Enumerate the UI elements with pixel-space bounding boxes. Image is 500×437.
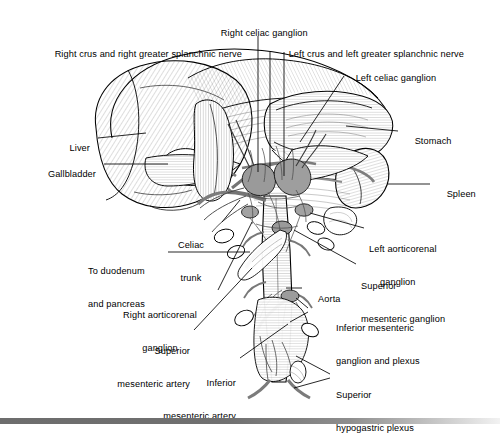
right-aorticorenal-ganglion-shape bbox=[242, 206, 259, 218]
footer-gradient-bar bbox=[0, 418, 500, 424]
label-celiac-trunk-line2: trunk bbox=[162, 273, 220, 284]
label-superior-hypogastric-plexus: Superior hypogastric plexus bbox=[336, 368, 414, 437]
label-inferior-mesenteric-ganglion-line1: Inferior mesenteric bbox=[336, 323, 420, 334]
label-liver-text: Liver bbox=[70, 143, 90, 153]
label-spleen-text: Spleen bbox=[447, 189, 476, 199]
label-gallbladder-text: Gallbladder bbox=[48, 169, 96, 179]
label-right-aorticorenal-line1: Right aorticorenal bbox=[104, 310, 216, 321]
label-inferior-mesenteric-artery-line1: Inferior bbox=[114, 378, 236, 389]
label-right-celiac-ganglion-text: Right celiac ganglion bbox=[221, 28, 308, 38]
label-to-duodenum-line1: To duodenum bbox=[88, 266, 145, 277]
label-left-celiac-ganglion-text: Left celiac ganglion bbox=[356, 73, 437, 83]
label-right-crus-splanchnic: Right crus and right greater splanchnic … bbox=[44, 38, 242, 71]
label-inferior-mesenteric-ganglion-line2: ganglion and plexus bbox=[336, 356, 420, 367]
left-aorticorenal-ganglion-shape bbox=[295, 204, 313, 216]
label-superior-mesenteric-ganglion-line1: Superior bbox=[361, 281, 445, 292]
label-left-aorticorenal-line1: Left aorticorenal bbox=[369, 244, 437, 255]
label-celiac-trunk-line1: Celiac bbox=[162, 240, 220, 251]
label-spleen: Spleen bbox=[436, 178, 476, 211]
label-right-crus-splanchnic-text: Right crus and right greater splanchnic … bbox=[55, 49, 242, 59]
label-superior-hypogastric-plexus-line1: Superior bbox=[336, 390, 414, 401]
label-stomach: Stomach bbox=[404, 125, 452, 158]
label-inferior-mesenteric-artery: Inferior mesenteric artery bbox=[114, 356, 236, 437]
label-left-crus-splanchnic-text: Left crus and left greater splanchnic ne… bbox=[289, 49, 464, 59]
label-left-celiac-ganglion: Left celiac ganglion bbox=[345, 62, 436, 95]
label-stomach-text: Stomach bbox=[415, 136, 452, 146]
label-gallbladder: Gallbladder bbox=[8, 158, 96, 191]
label-superior-hypogastric-plexus-line2: hypogastric plexus bbox=[336, 423, 414, 434]
